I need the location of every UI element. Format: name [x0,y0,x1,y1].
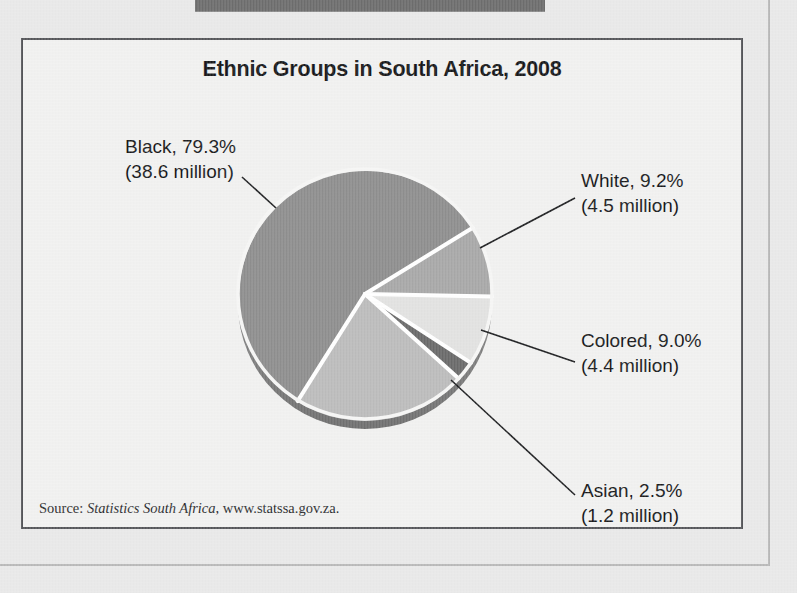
leader-line-white [480,198,575,248]
leader-line-black [242,177,276,208]
pie-label-asian: Asian, 2.5% (1.2 million) [581,478,682,528]
pie-chart-svg [23,40,745,531]
pie-label-white-line2: (4.5 million) [581,193,683,218]
pie-label-colored-line2: (4.4 million) [581,353,701,378]
pie-chart [23,40,741,527]
pie-label-white-line1: White, 9.2% [581,170,683,191]
pie-label-asian-line2: (1.2 million) [581,503,682,528]
pie-label-colored-line1: Colored, 9.0% [581,330,701,351]
leader-line-colored [481,330,575,362]
source-url: , www.statssa.gov.za. [216,500,340,516]
pie-label-asian-line1: Asian, 2.5% [581,480,682,501]
pie-label-black-line2: (38.6 million) [125,159,236,184]
source-publisher: Statistics South Africa [87,500,216,516]
leader-line-asian [451,380,575,495]
figure-container: Ethnic Groups in South Africa, 2008 [21,38,743,529]
pie-label-black-line1: Black, 79.3% [125,136,236,157]
pie-label-black: Black, 79.3% (38.6 million) [125,134,236,184]
pie-label-white: White, 9.2% (4.5 million) [581,168,683,218]
source-prefix: Source: [39,500,87,516]
page-header-band [195,0,545,12]
source-note: Source: Statistics South Africa, www.sta… [39,500,339,517]
pie-label-colored: Colored, 9.0% (4.4 million) [581,328,701,378]
